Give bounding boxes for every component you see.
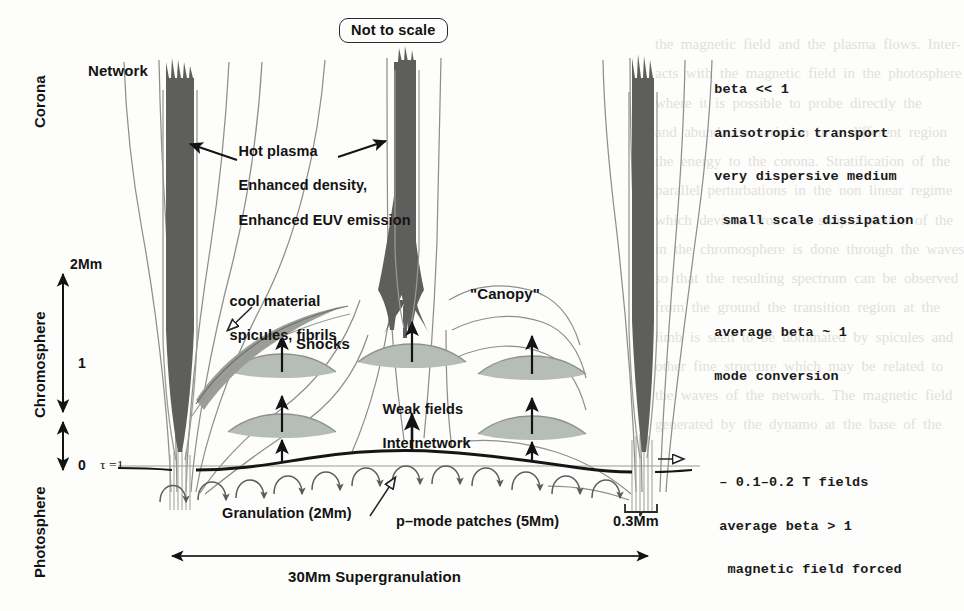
shock-dome [478,398,586,440]
chromosphere-physics-block: average beta ~ 1 mode conversion [681,300,847,409]
hot-plasma-line-1: Hot plasma [239,143,318,159]
height-tick-0: 0 [78,457,86,474]
region-label-corona: Corona [31,76,48,129]
supergranulation-label: 30Mm Supergranulation [288,568,461,586]
photosphere-physics-block: – 0.1–0.2 T fields average beta > 1 magn… [686,450,902,603]
corona-physics-line-1: beta << 1 [714,82,789,97]
region-label-chromosphere: Chromosphere [31,311,48,418]
weak-fields-label: Weak fields Internetwork [366,384,471,470]
hot-plasma-line-2: Enhanced density, [239,177,368,193]
weak-fields-line-2: Internetwork [383,435,471,451]
photosphere-physics-line-2: average beta > 1 [719,519,852,534]
network-label: Network [88,62,148,80]
chromosphere-physics-line-1: average beta ~ 1 [714,325,847,340]
corona-physics-block: beta << 1 anisotropic transport very dis… [681,57,913,254]
corona-physics-line-3: very dispersive medium [714,169,897,184]
granulation-rolls [160,466,620,502]
network-flux-tube-right [629,54,657,512]
height-tick-2mm: 2Mm [70,256,102,273]
cool-material-line-1: cool material [230,293,321,309]
p-mode-patches-label: p–mode patches (5Mm) [396,513,559,530]
tube-width-label: 0.3Mm [613,513,659,530]
height-tick-1: 1 [78,355,86,372]
shock-dome [358,322,466,368]
photosphere-physics-line-3: magnetic field forced [719,562,902,577]
not-to-scale-badge: Not to scale [339,18,448,43]
shock-dome [228,396,336,438]
granulation-label: Granulation (2Mm) [222,505,352,522]
photosphere-physics-line-1: – 0.1–0.2 T fields [719,475,868,490]
weak-fields-line-1: Weak fields [383,401,464,417]
corona-physics-line-4: small scale dissipation [714,213,913,228]
chromosphere-physics-line-2: mode conversion [714,369,839,384]
hot-plasma-label: Hot plasma Enhanced density, Enhanced EU… [222,126,411,246]
shocks-label: Shocks [296,335,350,353]
region-label-photosphere: Photosphere [31,486,48,578]
hot-plasma-line-3: Enhanced EUV emission [239,212,411,228]
tau-equals-one-label: τ =1 [100,457,124,473]
canopy-label: "Canopy" [470,285,540,303]
corona-physics-line-2: anisotropic transport [714,126,888,141]
